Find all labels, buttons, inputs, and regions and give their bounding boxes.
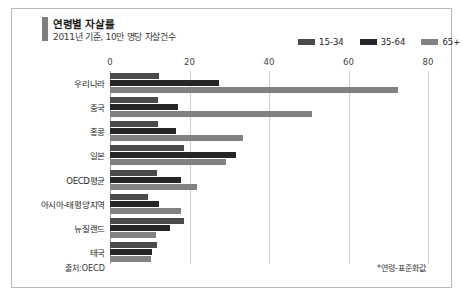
- x-tick-label: 0: [107, 57, 112, 67]
- bar-group: [110, 119, 428, 143]
- chart-frame: 연령별 자살률 2011년 기준, 10만 명당 자살건수 15-3435-64…: [11, 8, 452, 288]
- bar: [110, 177, 181, 183]
- bar: [110, 208, 181, 214]
- bar: [110, 80, 219, 86]
- category-label: 아시아-태평양지역: [41, 198, 105, 210]
- bar-group: [110, 143, 428, 167]
- x-tick-label: 20: [184, 57, 195, 67]
- bar: [110, 249, 152, 255]
- bar-group: [110, 192, 428, 216]
- bar: [110, 256, 151, 262]
- chart-legend: 15-3435-6465+: [298, 37, 460, 47]
- source-label: 출처:OECD: [65, 262, 105, 273]
- bar: [110, 218, 184, 224]
- bar: [110, 87, 398, 93]
- legend-label: 15-34: [319, 37, 344, 47]
- bar: [110, 145, 184, 151]
- category-label: 일본: [90, 149, 105, 161]
- category-label: 우리나라: [74, 77, 105, 89]
- bar: [110, 111, 312, 117]
- bar-group: [110, 216, 428, 240]
- bar: [110, 135, 243, 141]
- bar: [110, 242, 157, 248]
- page-title: 연령별 자살률: [53, 16, 115, 31]
- bar-group: [110, 168, 428, 192]
- bar: [110, 159, 226, 165]
- legend-item-65+: 65+: [421, 37, 460, 47]
- category-label: 홍콩: [90, 125, 105, 137]
- bar: [110, 170, 157, 176]
- bar: [110, 104, 178, 110]
- bar: [110, 128, 176, 134]
- legend-item-35-64: 35-64: [360, 37, 406, 47]
- plot-area: [110, 71, 428, 264]
- chart-subtitle: 2011년 기준, 10만 명당 자살건수: [53, 30, 175, 43]
- footnote-label: *연령-표준화값: [377, 262, 426, 273]
- legend-label: 35-64: [381, 37, 406, 47]
- bar: [110, 201, 159, 207]
- x-tick-label: 80: [423, 57, 434, 67]
- category-label: 뉴질랜드: [74, 222, 105, 234]
- bar: [110, 194, 148, 200]
- bar: [110, 73, 159, 79]
- x-axis-labels: 020406080: [110, 57, 428, 69]
- bar-group: [110, 71, 428, 95]
- bar: [110, 152, 236, 158]
- x-tick-label: 60: [343, 57, 354, 67]
- bar-group: [110, 95, 428, 119]
- legend-label: 65+: [442, 37, 460, 47]
- bar: [110, 184, 197, 190]
- legend-swatch-icon: [421, 39, 438, 45]
- category-label: 중국: [90, 101, 105, 113]
- legend-swatch-icon: [360, 39, 377, 45]
- category-axis: 우리나라중국홍콩일본OECD평균아시아-태평양지역뉴질랜드태국: [12, 71, 105, 264]
- title-accent-bar: [42, 17, 48, 41]
- chart-screenshot: 연령별 자살률 2011년 기준, 10만 명당 자살건수 15-3435-64…: [0, 0, 463, 296]
- bar-group: [110, 240, 428, 264]
- bar: [110, 121, 158, 127]
- x-tick-label: 40: [264, 57, 275, 67]
- category-label: 태국: [90, 246, 105, 258]
- bar: [110, 225, 170, 231]
- legend-item-15-34: 15-34: [298, 37, 344, 47]
- gridline: [428, 71, 429, 264]
- bar: [110, 97, 158, 103]
- bar: [110, 232, 156, 238]
- category-label: OECD평균: [66, 174, 105, 186]
- legend-swatch-icon: [298, 39, 315, 45]
